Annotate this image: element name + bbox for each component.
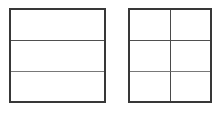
grid-cell <box>11 40 104 70</box>
right-square-sixths <box>128 8 212 103</box>
grid-cell <box>170 71 210 101</box>
grid-cell <box>11 71 104 101</box>
grid-cell <box>130 40 170 70</box>
grid-cell <box>130 10 170 40</box>
grid-cell <box>170 40 210 70</box>
grid-cell <box>11 10 104 40</box>
left-square-thirds <box>9 8 106 103</box>
figure-canvas <box>0 0 223 114</box>
grid-cell <box>130 71 170 101</box>
grid-cell <box>170 10 210 40</box>
